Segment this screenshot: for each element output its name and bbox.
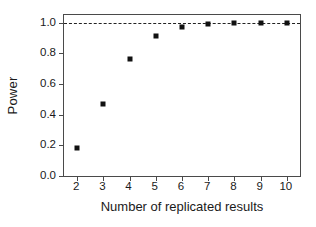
y-axis-tick-mark: [59, 176, 64, 177]
x-axis-tick-label: 6: [178, 180, 184, 192]
data-point: [206, 22, 211, 27]
x-axis-tick-label: 5: [152, 180, 158, 192]
data-point: [75, 146, 80, 151]
reference-line: [64, 23, 300, 24]
data-point: [180, 25, 185, 30]
plot-area: [63, 14, 301, 177]
x-axis-tick-label: 9: [256, 180, 262, 192]
y-axis-tick-mark: [59, 115, 64, 116]
data-surface: [64, 15, 300, 176]
data-point: [284, 20, 289, 25]
y-axis-tick-label: 0.6: [40, 77, 56, 89]
x-axis-tick-label: 10: [279, 180, 292, 192]
data-point: [232, 20, 237, 25]
y-axis-tick-label: 0.2: [40, 138, 56, 150]
x-axis-tick-labels: 2345678910: [63, 180, 301, 198]
data-point: [127, 57, 132, 62]
y-axis-tick-labels: 0.00.20.40.60.81.0: [24, 0, 62, 227]
data-point: [101, 101, 106, 106]
y-axis-tick-label: 0.4: [40, 108, 56, 120]
y-axis-tick-mark: [59, 23, 64, 24]
y-axis-tick-label: 0.8: [40, 46, 56, 58]
power-scatter-chart: Power 0.00.20.40.60.81.0 2345678910 Numb…: [0, 0, 316, 227]
x-axis-tick-label: 7: [204, 180, 210, 192]
y-axis-tick-mark: [59, 53, 64, 54]
y-axis-tick-mark: [59, 145, 64, 146]
y-axis-title-text: Power: [6, 76, 21, 114]
data-point: [153, 34, 158, 39]
y-axis-title: Power: [0, 0, 26, 190]
x-axis-title: Number of replicated results: [63, 199, 301, 214]
y-axis-tick-mark: [59, 84, 64, 85]
x-axis-tick-label: 2: [73, 180, 79, 192]
data-point: [258, 20, 263, 25]
x-axis-tick-label: 8: [230, 180, 236, 192]
y-axis-tick-label: 0.0: [40, 169, 56, 181]
x-axis-tick-label: 3: [99, 180, 105, 192]
x-axis-tick-label: 4: [125, 180, 131, 192]
y-axis-tick-label: 1.0: [40, 16, 56, 28]
